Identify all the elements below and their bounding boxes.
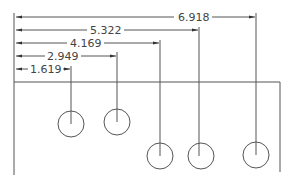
dimension-1619[interactable]: 1.619 [16,63,70,76]
dimension-6918[interactable]: 6.918 [16,11,255,24]
hole-4[interactable] [188,143,214,169]
dimension-label: 4.169 [70,37,102,50]
dimension-label: 1.619 [30,63,62,76]
dimension-5322[interactable]: 5.322 [16,24,198,37]
dimension-4169[interactable]: 4.169 [16,37,159,50]
dimension-2949[interactable]: 2.949 [16,50,116,63]
dimension-label: 5.322 [90,24,122,37]
dimension-label: 6.918 [178,11,210,24]
holes [58,109,269,169]
technical-drawing: 6.918 5.322 4.169 2.949 1.619 [0,0,292,182]
dimension-label: 2.949 [47,50,79,63]
